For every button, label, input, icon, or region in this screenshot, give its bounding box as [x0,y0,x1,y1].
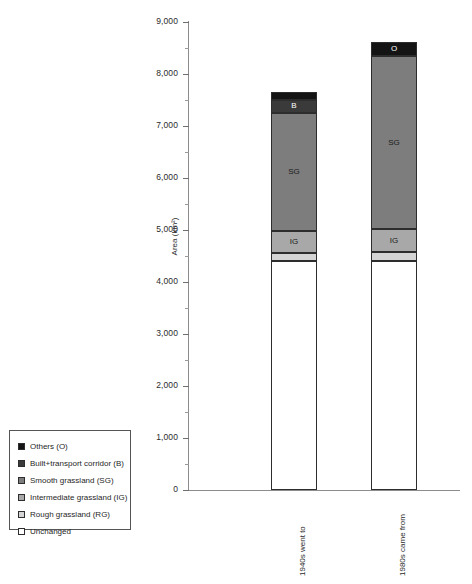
legend-item[interactable]: Rough grassland (RG) [18,506,130,523]
bar-segment-o [271,92,317,100]
stacked-bar-chart: Area (km²) 9,0008,0007,0006,0005,0004,00… [0,0,472,584]
legend-label: Intermediate grassland (IG) [30,493,127,502]
legend-swatch-icon [18,443,25,450]
legend-swatch-icon [18,460,25,467]
legend-swatch-icon [18,477,25,484]
y-tick-minor [185,464,189,465]
segment-label: B [291,102,296,110]
segment-label: SG [288,168,300,176]
bar-segment-unchanged [271,261,317,490]
y-tick-major [183,386,189,387]
legend-item[interactable]: Smooth grassland (SG) [18,472,130,489]
x-axis-label-1: 1940s went to [298,526,307,576]
y-axis-title: Area (km²) [170,197,179,277]
y-tick-minor [185,256,189,257]
legend-label: Smooth grassland (SG) [30,476,114,485]
y-tick-major [183,334,189,335]
segment-label: IG [390,237,398,245]
legend-swatch-icon [18,511,25,518]
bar-1: IGSGB [271,0,317,584]
bar-segment-ig: IG [271,231,317,253]
y-tick-minor [185,308,189,309]
y-tick-major [183,490,189,491]
segment-label: IG [290,238,298,246]
y-tick-major [183,178,189,179]
legend-swatch-icon [18,528,25,535]
legend-item[interactable]: Intermediate grassland (IG) [18,489,130,506]
legend-label: Others (O) [30,442,68,451]
bar-segment-sg: SG [271,113,317,231]
legend-swatch-icon [18,494,25,501]
y-tick-major [183,126,189,127]
y-tick-major [183,22,189,23]
x-axis-label-2: 1980s came from [398,514,407,576]
segment-label: O [391,45,397,53]
y-tick-minor [185,100,189,101]
bar-segment-unchanged [371,261,417,490]
legend-label: Unchanged [30,527,71,536]
bar-segment-rg [371,252,417,261]
bar-segment-ig: IG [371,229,417,252]
legend-label: Rough grassland (RG) [30,510,110,519]
y-tick-minor [185,412,189,413]
bar-segment-o: O [371,42,417,56]
legend-item[interactable]: Unchanged [18,523,130,540]
y-tick-major [183,230,189,231]
chart-legend: Others (O)Built+transport corridor (B)Sm… [9,430,131,530]
y-tick-major [183,74,189,75]
bar-segment-sg: SG [371,56,417,229]
legend-item[interactable]: Others (O) [18,438,130,455]
y-tick-major [183,282,189,283]
segment-label: SG [388,139,400,147]
y-tick-major [183,438,189,439]
legend-label: Built+transport corridor (B) [30,459,124,468]
y-tick-minor [185,204,189,205]
y-tick-minor [185,48,189,49]
legend-item[interactable]: Built+transport corridor (B) [18,455,130,472]
bar-segment-b: B [271,100,317,113]
bar-segment-rg [271,253,317,261]
bar-2: IGSGO [371,0,417,584]
y-tick-minor [185,360,189,361]
x-axis-line [188,490,460,491]
y-tick-minor [185,152,189,153]
